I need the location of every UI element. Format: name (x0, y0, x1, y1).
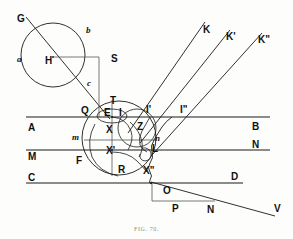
label-X-double-prime: X" (143, 165, 155, 176)
ray-bundle-K (128, 22, 262, 155)
label-X: X (106, 124, 113, 135)
ray-to-Kdoubleprime (152, 33, 262, 155)
upper-circle-group (21, 17, 110, 119)
label-L: L (152, 143, 158, 154)
label-H: H (45, 55, 52, 66)
optics-ray-diagram: G a b c H S T Q E I I' I" K K' K" A B M … (0, 0, 293, 239)
label-N-right: N (252, 139, 259, 150)
label-b: b (86, 25, 91, 35)
label-K: K (203, 24, 211, 35)
figure-container: G a b c H S T Q E I I' I" K K' K" A B M … (0, 0, 293, 239)
label-F: F (76, 155, 82, 166)
label-G: G (17, 13, 25, 24)
label-M: M (28, 151, 36, 162)
label-X-prime: X' (106, 145, 115, 156)
label-N-bottom: N (207, 204, 214, 215)
ray-to-Kprime (140, 30, 230, 143)
point-H (52, 56, 54, 58)
label-R: R (118, 164, 126, 175)
label-I-double-prime: I" (180, 104, 188, 115)
label-A: A (28, 122, 35, 133)
label-K-double-prime: K" (258, 34, 270, 45)
label-O: O (163, 185, 171, 196)
label-P: P (172, 203, 179, 214)
label-K-prime: K' (226, 31, 236, 42)
label-E: E (104, 107, 111, 118)
point-X (111, 116, 113, 118)
figure-caption: FIG. 70. (0, 226, 293, 232)
label-D: D (231, 171, 238, 182)
label-layer: G a b c H S T Q E I I' I" K K' K" A B M … (17, 13, 281, 215)
label-S: S (111, 53, 118, 64)
label-T: T (110, 95, 116, 106)
label-Q: Q (81, 105, 89, 116)
ray-to-K (128, 22, 205, 133)
label-I: I (119, 107, 122, 118)
label-B: B (252, 121, 259, 132)
label-c: c (87, 78, 91, 88)
label-Z: Z (137, 121, 143, 132)
point-O (150, 182, 152, 184)
label-I-prime: I' (146, 104, 151, 115)
label-n: n (155, 133, 160, 143)
label-a: a (17, 54, 22, 64)
ray-G-incident (26, 17, 110, 119)
label-m: m (72, 132, 79, 142)
label-C: C (28, 172, 35, 183)
label-V: V (274, 203, 281, 214)
